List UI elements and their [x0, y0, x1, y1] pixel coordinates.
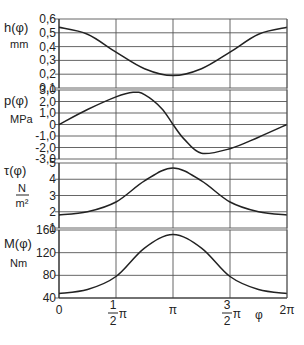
y-tick-label-M: 40 — [43, 291, 57, 305]
y-tick-label-tau: 4 — [49, 172, 56, 186]
stacked-line-chart: 0,60,50,40,30,20,13,02,01,00-1,0-2,0-3,0… — [0, 0, 304, 345]
x-tick-pi: π — [119, 307, 127, 321]
y-unit-M: Nm — [10, 257, 27, 269]
y-unit-h: mm — [10, 38, 28, 50]
y-label-h: h(φ) — [4, 20, 28, 35]
y-tick-label-tau: 5 — [49, 156, 56, 170]
y-tick-label-M: 160 — [36, 223, 56, 237]
x-tick-pi: π — [233, 307, 241, 321]
x-tick-num: 3 — [224, 298, 231, 312]
y-tick-label-h: 0,3 — [39, 53, 56, 67]
y-label-p: p(φ) — [4, 93, 28, 108]
y-tick-label-h: 0,6 — [39, 12, 56, 26]
x-tick-label: π — [169, 303, 177, 317]
y-unit-den-tau: m² — [16, 197, 29, 209]
y-label-M: M(φ) — [4, 236, 32, 251]
y-label-tau: τ(φ) — [4, 163, 26, 178]
y-unit-p: MPa — [10, 113, 34, 125]
y-tick-label-tau: 3 — [49, 189, 56, 203]
x-tick-label: 0 — [56, 303, 63, 317]
y-tick-label-M: 80 — [43, 268, 57, 282]
y-tick-label-tau: 2 — [49, 205, 56, 219]
x-axis-label: φ — [255, 308, 263, 322]
x-tick-den: 2 — [110, 314, 117, 328]
y-unit-num-tau: N — [18, 182, 26, 194]
y-tick-label-h: 0,5 — [39, 26, 56, 40]
x-tick-den: 2 — [224, 314, 231, 328]
x-tick-num: 1 — [110, 298, 117, 312]
y-tick-label-h: 0,4 — [39, 40, 56, 54]
y-tick-label-h: 0,2 — [39, 67, 56, 81]
chart-container: 0,60,50,40,30,20,13,02,01,00-1,0-2,0-3,0… — [0, 0, 304, 345]
x-tick-label: 2π — [280, 303, 295, 317]
y-tick-label-M: 120 — [36, 246, 56, 260]
